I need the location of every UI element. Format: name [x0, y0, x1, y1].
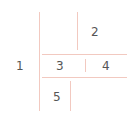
upper-vertical-divider — [77, 12, 78, 50]
lower-vertical-divider — [70, 81, 71, 111]
label-2: 2 — [91, 26, 99, 38]
middle-vertical-divider — [85, 59, 86, 72]
label-1: 1 — [16, 60, 24, 72]
top-horizontal-divider — [42, 54, 127, 55]
label-4: 4 — [102, 60, 110, 72]
bottom-horizontal-divider — [42, 77, 127, 78]
label-5: 5 — [53, 91, 61, 103]
label-3: 3 — [56, 60, 64, 72]
main-vertical-divider — [39, 12, 40, 111]
